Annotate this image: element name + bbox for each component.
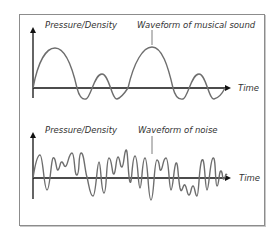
waveform-label: Waveform of noise [138,125,218,135]
noise-panel: Pressure/Density Waveform of noise Time [33,125,260,200]
waveform-diagram: Pressure/Density Waveform of musical sou… [0,0,276,239]
waveform-label: Waveform of musical sound [137,20,256,30]
musical-sound-panel: Pressure/Density Waveform of musical sou… [33,20,259,99]
y-axis-label: Pressure/Density [45,20,118,30]
noise-waveform [33,150,227,200]
musical-waveform [33,47,225,99]
x-axis-label: Time [238,83,259,93]
y-axis-label: Pressure/Density [45,125,118,135]
x-axis-label: Time [239,173,260,183]
